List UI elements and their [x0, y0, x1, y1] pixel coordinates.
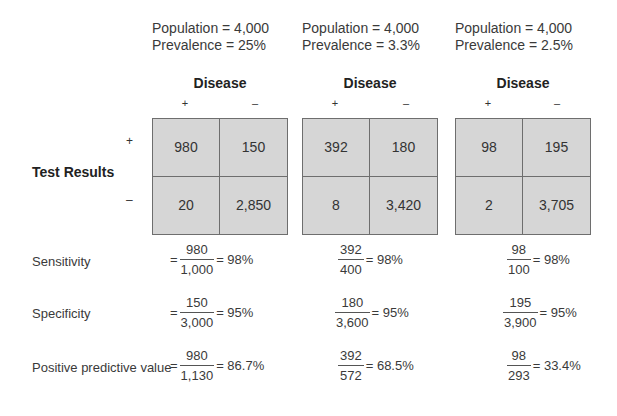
specificity-formula-2: 180 3,600 = 95% — [333, 295, 409, 330]
numerator: 392 — [338, 348, 364, 366]
denominator: 100 — [508, 260, 530, 277]
false-positive-cell: 180 — [370, 119, 437, 177]
fraction: 195 3,900 — [504, 295, 537, 330]
false-negative-cell: 20 — [153, 177, 220, 235]
specificity-label: Specificity — [32, 306, 91, 321]
prevalence-label: Prevalence = 2.5% — [455, 37, 573, 54]
true-positive-cell: 98 — [456, 119, 523, 177]
col-plus-sign: + — [478, 97, 498, 109]
specificity-formula-1: = 150 3,000 = 95% — [170, 295, 253, 330]
disease-label: Disease — [302, 75, 438, 91]
result: = 98% — [216, 252, 253, 267]
population-label: Population = 4,000 — [455, 20, 573, 37]
numerator: 980 — [180, 348, 215, 366]
result: = 98% — [366, 252, 403, 267]
sensitivity-label: Sensitivity — [32, 254, 91, 269]
result: = 86.7% — [216, 358, 264, 373]
result: = 98% — [533, 252, 570, 267]
false-negative-cell: 8 — [303, 177, 370, 235]
result: = 95% — [540, 305, 577, 320]
population-label: Population = 4,000 — [302, 20, 420, 37]
denominator: 1,130 — [181, 366, 214, 383]
fraction: 392 572 — [339, 348, 363, 383]
fraction: 180 3,600 — [336, 295, 369, 330]
panel-1-header: Population = 4,000 Prevalence = 25% — [152, 20, 269, 54]
fraction: 98 293 — [508, 348, 530, 383]
panel-2-header: Population = 4,000 Prevalence = 3.3% — [302, 20, 420, 54]
numerator: 392 — [338, 242, 364, 260]
disease-label: Disease — [152, 75, 288, 91]
denominator: 3,600 — [336, 313, 369, 330]
sensitivity-formula-2: 392 400 = 98% — [336, 242, 403, 277]
numerator: 980 — [180, 242, 215, 260]
fraction: 980 1,000 — [181, 242, 214, 277]
prevalence-label: Prevalence = 3.3% — [302, 37, 420, 54]
prevalence-label: Prevalence = 25% — [152, 37, 269, 54]
true-negative-cell: 2,850 — [220, 177, 287, 235]
col-minus-sign: – — [547, 97, 567, 109]
numerator: 98 — [507, 242, 531, 260]
result: = 68.5% — [366, 358, 414, 373]
result: = 95% — [216, 305, 253, 320]
ppv-formula-1: = 980 1,130 = 86.7% — [170, 348, 264, 383]
fraction: 98 100 — [508, 242, 530, 277]
specificity-formula-3: 195 3,900 = 95% — [501, 295, 577, 330]
population-label: Population = 4,000 — [152, 20, 269, 37]
numerator: 98 — [507, 348, 531, 366]
numerator: 150 — [180, 295, 215, 313]
col-minus-sign: – — [245, 97, 265, 109]
col-plus-sign: + — [175, 97, 195, 109]
ppv-formula-2: 392 572 = 68.5% — [336, 348, 414, 383]
row-plus-sign: + — [126, 134, 133, 148]
true-positive-cell: 980 — [153, 119, 220, 177]
equals-sign: = — [170, 305, 178, 320]
true-negative-cell: 3,420 — [370, 177, 437, 235]
denominator: 400 — [340, 260, 362, 277]
numerator: 195 — [503, 295, 538, 313]
denominator: 293 — [508, 366, 530, 383]
denominator: 572 — [340, 366, 362, 383]
fraction: 980 1,130 — [181, 348, 214, 383]
result: = 33.4% — [533, 358, 581, 373]
fraction: 392 400 — [339, 242, 363, 277]
disease-label: Disease — [455, 75, 591, 91]
sensitivity-formula-1: = 980 1,000 = 98% — [170, 242, 253, 277]
ppv-label: Positive predictive value — [32, 360, 171, 375]
fraction: 150 3,000 — [181, 295, 214, 330]
denominator: 3,000 — [181, 313, 214, 330]
col-minus-sign: – — [396, 97, 416, 109]
false-positive-cell: 195 — [523, 119, 590, 177]
result: = 95% — [372, 305, 409, 320]
equals-sign: = — [170, 358, 178, 373]
sensitivity-formula-3: 98 100 = 98% — [505, 242, 570, 277]
panel-3-header: Population = 4,000 Prevalence = 2.5% — [455, 20, 573, 54]
equals-sign: = — [170, 252, 178, 267]
denominator: 3,900 — [504, 313, 537, 330]
numerator: 180 — [335, 295, 370, 313]
denominator: 1,000 — [181, 260, 214, 277]
ppv-formula-3: 98 293 = 33.4% — [505, 348, 581, 383]
col-plus-sign: + — [325, 97, 345, 109]
contingency-table-1: 980 150 20 2,850 — [152, 118, 288, 235]
contingency-table-3: 98 195 2 3,705 — [455, 118, 591, 235]
false-negative-cell: 2 — [456, 177, 523, 235]
contingency-table-2: 392 180 8 3,420 — [302, 118, 438, 235]
row-minus-sign: – — [126, 193, 133, 207]
true-positive-cell: 392 — [303, 119, 370, 177]
true-negative-cell: 3,705 — [523, 177, 590, 235]
test-results-label: Test Results — [32, 164, 114, 180]
false-positive-cell: 150 — [220, 119, 287, 177]
